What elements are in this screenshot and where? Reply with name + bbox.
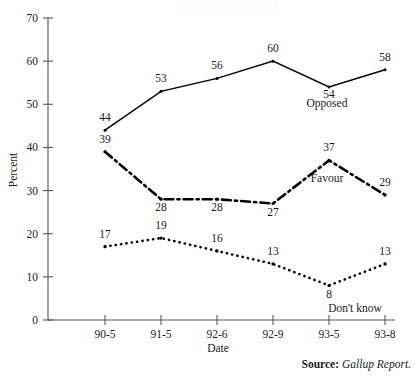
x-tick-label: 90-5 [94, 328, 115, 340]
data-point [159, 236, 162, 239]
data-point-label: 16 [211, 232, 223, 244]
data-point-label: 13 [267, 245, 279, 257]
data-point-label: 28 [155, 201, 167, 213]
series-label-opposed: Opposed [307, 97, 348, 110]
data-point [383, 193, 386, 196]
y-tick-label: 0 [32, 314, 38, 326]
data-point [383, 262, 386, 265]
y-axis-title: Percent [7, 152, 19, 187]
y-tick-label: 70 [27, 12, 39, 24]
data-point-label: 27 [267, 206, 279, 218]
data-point-label: 53 [155, 72, 167, 84]
data-point [271, 262, 274, 265]
y-tick-label: 50 [27, 98, 39, 110]
y-tick-label: 30 [27, 185, 39, 197]
data-point [384, 68, 387, 71]
y-axis: 010203040506070 [27, 12, 54, 326]
data-point-label: 19 [155, 219, 167, 231]
data-point-label: 56 [211, 59, 223, 71]
data-label-layer: 445356605458Opposed392828273729Favour171… [99, 42, 391, 314]
data-point [215, 249, 218, 252]
x-axis-title: Date [207, 342, 229, 354]
data-point-label: 8 [326, 288, 332, 300]
source-label: Source: [302, 358, 339, 370]
x-tick-label: 92-6 [206, 328, 227, 340]
x-tick-label: 93-8 [374, 328, 395, 340]
data-point-label: 29 [379, 176, 391, 188]
series-line-opposed [105, 61, 385, 130]
data-point [160, 90, 163, 93]
y-tick-label: 60 [27, 55, 39, 67]
data-point-label: 39 [99, 133, 111, 145]
y-tick-label: 10 [27, 271, 39, 283]
x-axis: 90-591-592-692-993-593-8 [48, 315, 396, 340]
data-point [104, 129, 107, 132]
line-chart-plot: 010203040506070 90-591-592-692-993-593-8… [0, 0, 420, 378]
data-point-label: 13 [379, 245, 391, 257]
series-layer [103, 60, 386, 287]
data-point-label: 28 [211, 201, 223, 213]
data-point-label: 37 [323, 141, 335, 153]
chart-container: 010203040506070 90-591-592-692-993-593-8… [0, 0, 420, 378]
data-point [103, 245, 106, 248]
x-tick-label: 93-5 [318, 328, 339, 340]
data-point-label: 60 [267, 42, 279, 54]
x-tick-label: 92-9 [262, 328, 283, 340]
source-note: Source:Gallup Report. [302, 358, 411, 370]
data-point [272, 60, 275, 63]
data-point-label: 58 [379, 51, 391, 63]
data-point [327, 284, 330, 287]
data-point-label: 17 [99, 228, 111, 240]
series-line-don-t-know [105, 238, 385, 285]
data-point [103, 150, 106, 153]
data-point [327, 159, 330, 162]
data-point-label: 44 [99, 111, 111, 123]
series-label-favour: Favour [311, 172, 344, 184]
series-label-don-t-know: Don't know [328, 302, 382, 314]
x-tick-label: 91-5 [150, 328, 171, 340]
data-point [216, 77, 219, 80]
source-value: Gallup Report. [339, 358, 411, 370]
y-tick-label: 20 [27, 228, 39, 240]
y-tick-label: 40 [27, 141, 39, 153]
